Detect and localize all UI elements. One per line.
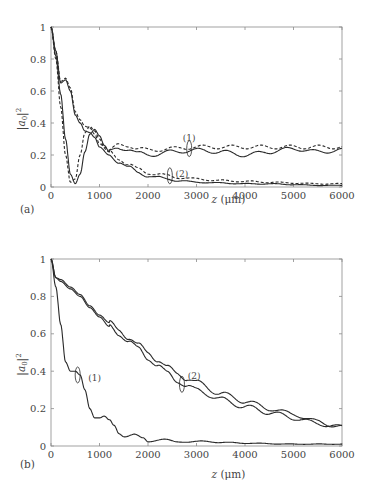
x-tick-label: 5000	[281, 190, 306, 201]
x-tick-label: 4000	[232, 449, 257, 460]
y-tick-label: 0.2	[30, 150, 46, 161]
series-line	[51, 27, 342, 184]
x-tick-label: 5000	[281, 449, 306, 460]
x-tick-label: 0	[48, 449, 54, 460]
annotation-label: (2)	[188, 371, 201, 381]
x-tick-label: 6000	[329, 190, 354, 201]
x-tick-label: 1000	[87, 190, 112, 201]
x-axis-label: z (μm)	[211, 193, 246, 205]
figure: 010002000300040005000600000.20.40.60.81z…	[0, 0, 371, 494]
panel-b-chart: 010002000300040005000600000.20.40.60.81z…	[15, 254, 355, 481]
series-line	[51, 27, 342, 182]
panel-label: (a)	[20, 203, 34, 215]
y-tick-label: 1	[40, 254, 46, 265]
x-axis-label: z (μm)	[211, 468, 246, 480]
series-line	[51, 27, 342, 186]
y-tick-label: 0.8	[30, 54, 46, 65]
series-line	[51, 259, 342, 427]
series-line	[51, 259, 342, 427]
y-tick-label: 1	[40, 22, 46, 33]
x-tick-label: 3000	[184, 190, 209, 201]
y-tick-label: 0.6	[30, 86, 46, 97]
x-tick-label: 6000	[329, 449, 354, 460]
series-line	[51, 27, 342, 184]
x-tick-label: 2000	[135, 190, 160, 201]
y-tick-label: 0.8	[30, 291, 46, 302]
y-tick-label: 0.6	[30, 328, 46, 339]
annotation-label: (1)	[88, 373, 101, 383]
annotation-label: (1)	[183, 133, 196, 143]
annotation-label: (2)	[176, 169, 189, 179]
x-tick-label: 1000	[87, 449, 112, 460]
panel-a-chart: 010002000300040005000600000.20.40.60.81z…	[15, 22, 355, 216]
y-axis-label: |a0|2	[15, 353, 29, 375]
y-tick-label: 0.2	[30, 403, 46, 414]
y-tick-label: 0.4	[30, 366, 46, 377]
x-tick-label: 0	[48, 190, 54, 201]
x-tick-label: 2000	[135, 449, 160, 460]
y-tick-label: 0	[40, 441, 46, 452]
x-tick-label: 3000	[184, 449, 209, 460]
y-axis-label: |a0|2	[15, 108, 29, 130]
y-tick-label: 0.4	[30, 118, 46, 129]
panel-label: (b)	[20, 458, 35, 470]
plot-frame	[51, 27, 342, 187]
y-tick-label: 0	[40, 182, 46, 193]
